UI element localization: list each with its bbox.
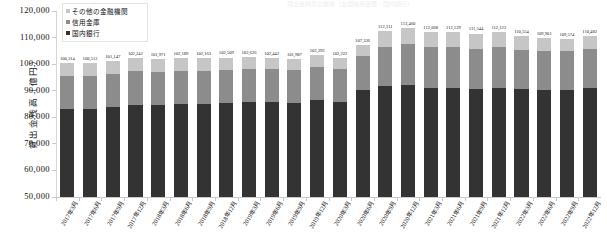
legend-label-bank: 国内銀行 — [72, 28, 100, 38]
x-tick-mark — [192, 198, 193, 201]
bar-segment-bank — [537, 90, 551, 197]
x-tick-mark — [533, 198, 534, 201]
bar-segment-bank — [83, 109, 97, 197]
bar-segment-shinkin — [287, 70, 301, 102]
bar-segment-bank — [514, 89, 528, 197]
bar-segment-shinkin — [583, 49, 597, 88]
bar-segment-shinkin — [514, 50, 528, 90]
bar-segment-other — [514, 36, 528, 49]
bar-segment-bank — [197, 104, 211, 197]
y-tick-label: 60,000 — [0, 164, 50, 174]
bar-value-label: 102,222 — [327, 51, 353, 56]
bar-segment-bank — [151, 105, 165, 197]
x-axis-label: 2019年9月 — [286, 199, 308, 227]
bar-column — [424, 32, 438, 197]
x-axis-label: 2020年12月 — [398, 199, 421, 230]
bar-column — [128, 58, 142, 197]
x-tick-mark — [465, 198, 466, 201]
bar-segment-bank — [60, 109, 74, 197]
y-tick-label: 50,000 — [0, 191, 50, 201]
bar-column — [583, 36, 597, 197]
x-axis-label: 2017年12月 — [125, 199, 148, 230]
x-axis-label: 2022年12月 — [579, 199, 602, 230]
bar-segment-other — [356, 45, 370, 57]
bar-segment-shinkin — [310, 67, 324, 100]
x-tick-mark — [260, 198, 261, 201]
bar-column — [60, 63, 74, 197]
bar-segment-other — [151, 59, 165, 72]
bar-segment-bank — [583, 88, 597, 197]
bar-segment-bank — [401, 85, 415, 197]
bar-segment-other — [83, 63, 97, 76]
chart-legend: その他の金融機関 信用金庫 国内銀行 — [62, 3, 148, 42]
bar-column — [197, 58, 211, 197]
bar-column — [537, 38, 551, 197]
bar-segment-shinkin — [560, 51, 574, 90]
bar-segment-bank — [492, 88, 506, 197]
bar-segment-bank — [469, 89, 483, 197]
bar-segment-other — [583, 36, 597, 49]
x-axis-label: 2021年3月 — [422, 199, 444, 227]
bar-segment-shinkin — [83, 76, 97, 109]
bar-segment-shinkin — [151, 72, 165, 105]
x-tick-mark — [306, 198, 307, 201]
bar-segment-other — [333, 58, 347, 69]
stacked-bar-chart: 貸出金残高の推移（全国信用金庫・国内銀行） 貸出金残高（億円） 120,0001… — [0, 0, 607, 251]
legend-label-other: その他の金融機関 — [72, 6, 128, 16]
x-tick-mark — [556, 198, 557, 201]
y-tick-label: 80,000 — [0, 111, 50, 121]
legend-item-other: その他の金融機関 — [66, 6, 144, 16]
x-tick-mark — [442, 198, 443, 201]
bar-segment-shinkin — [174, 71, 188, 104]
x-axis-label: 2019年3月 — [240, 199, 262, 227]
bar-segment-bank — [128, 105, 142, 197]
bar-segment-bank — [310, 100, 324, 197]
x-tick-mark — [215, 198, 216, 201]
x-tick-mark — [510, 198, 511, 201]
bar-segment-other — [174, 58, 188, 71]
x-axis-label: 2021年12月 — [489, 199, 512, 230]
bar-segment-other — [401, 28, 415, 44]
bar-segment-other — [242, 57, 256, 69]
bar-column — [265, 58, 279, 197]
bar-segment-other — [197, 58, 211, 71]
bar-segment-shinkin — [242, 69, 256, 102]
x-tick-mark — [578, 198, 579, 201]
x-tick-mark — [329, 198, 330, 201]
bar-segment-shinkin — [492, 47, 506, 87]
bar-segment-shinkin — [401, 44, 415, 85]
bar-segment-other — [492, 32, 506, 47]
bar-segment-other — [106, 61, 120, 74]
bar-column — [446, 32, 460, 197]
bar-segment-shinkin — [219, 70, 233, 103]
y-tick-label: 90,000 — [0, 85, 50, 95]
bar-column — [287, 59, 301, 197]
x-axis-label: 2018年6月 — [172, 199, 194, 227]
bar-segment-bank — [265, 102, 279, 197]
x-tick-mark — [351, 198, 352, 201]
x-axis-label: 2017年9月 — [104, 199, 126, 227]
bar-segment-other — [128, 58, 142, 71]
bar-column — [378, 31, 392, 197]
bar-column — [106, 61, 120, 197]
x-axis-label: 2020年3月 — [331, 199, 353, 227]
bar-segment-shinkin — [356, 56, 370, 89]
bar-segment-other — [424, 32, 438, 47]
y-tick-label: 120,000 — [0, 5, 50, 15]
bar-segment-shinkin — [424, 47, 438, 87]
bar-segment-bank — [424, 88, 438, 197]
legend-swatch-other-icon — [66, 9, 70, 13]
y-tick-label: 110,000 — [0, 32, 50, 42]
bar-segment-shinkin — [537, 51, 551, 90]
bar-segment-shinkin — [378, 47, 392, 86]
x-axis-label: 2019年6月 — [263, 199, 285, 227]
bar-segment-shinkin — [197, 71, 211, 104]
bar-segment-other — [265, 58, 279, 70]
bar-segment-bank — [378, 86, 392, 197]
bar-column — [151, 59, 165, 197]
x-axis-label: 2020年9月 — [377, 199, 399, 227]
x-tick-mark — [397, 198, 398, 201]
bar-segment-other — [287, 59, 301, 70]
x-axis-label: 2018年9月 — [195, 199, 217, 227]
x-axis-label: 2017年6月 — [81, 199, 103, 227]
